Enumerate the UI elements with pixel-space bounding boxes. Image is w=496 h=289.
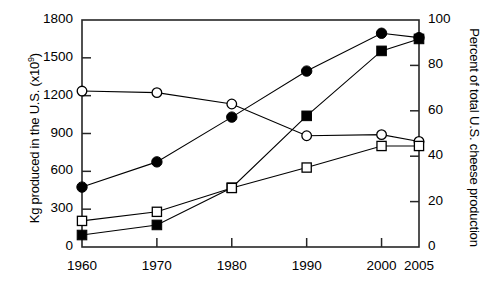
- data-point-filled-square: [152, 220, 162, 230]
- right-axis-tick-label: 80: [428, 56, 462, 71]
- data-point-filled-circle: [301, 66, 311, 76]
- bottom-axis-tick-label: 1990: [282, 258, 332, 273]
- data-point-open-square: [302, 163, 311, 172]
- plot-frame: [82, 20, 419, 247]
- data-point-filled-circle: [227, 112, 237, 122]
- data-point-filled-circle: [152, 157, 162, 167]
- left-axis-tick-label: 1500: [20, 49, 73, 64]
- data-point-open-square: [227, 183, 236, 192]
- data-point-open-circle: [377, 130, 387, 140]
- right-axis-tick-label: 40: [428, 147, 462, 162]
- chart-figure: Kg produced in the U.S. (x109) Percent o…: [0, 0, 496, 289]
- right-axis-tick-label: 0: [428, 238, 462, 253]
- right-axis-tick-label: 100: [428, 11, 462, 26]
- left-axis-tick-label: 600: [20, 162, 73, 177]
- chart-plot-area: [0, 0, 496, 289]
- left-axis-tick-label: 1200: [20, 87, 73, 102]
- data-point-open-square: [414, 141, 423, 150]
- bottom-axis-tick-label: 1960: [57, 258, 107, 273]
- bottom-axis-tick-label: 1970: [132, 258, 182, 273]
- data-point-open-square: [77, 216, 86, 225]
- right-axis-title: Percent of total U.S. cheese production: [467, 23, 482, 253]
- left-axis-tick-label: 300: [20, 200, 73, 215]
- data-point-filled-square: [414, 34, 424, 44]
- data-point-open-circle: [77, 86, 87, 96]
- series-line-0: [82, 33, 419, 187]
- data-point-open-circle: [227, 99, 237, 109]
- data-point-filled-circle: [77, 182, 87, 192]
- data-point-open-circle: [302, 131, 312, 141]
- data-point-filled-circle: [376, 28, 386, 38]
- bottom-axis-tick-label: 1980: [207, 258, 257, 273]
- right-axis-tick-label: 20: [428, 193, 462, 208]
- data-point-open-square: [152, 207, 161, 216]
- bottom-axis-tick-label: 2005: [394, 258, 444, 273]
- right-axis-tick-label: 60: [428, 102, 462, 117]
- series-line-2: [82, 91, 419, 141]
- left-axis-tick-label: 1800: [20, 11, 73, 26]
- data-point-filled-square: [302, 111, 312, 121]
- data-point-filled-square: [377, 46, 387, 56]
- left-axis-tick-label: 900: [20, 125, 73, 140]
- left-axis-tick-label: 0: [20, 238, 73, 253]
- data-point-open-circle: [152, 88, 162, 98]
- data-point-filled-square: [77, 230, 87, 240]
- data-point-open-square: [377, 141, 386, 150]
- series-line-1: [82, 39, 419, 235]
- series-line-3: [82, 146, 419, 221]
